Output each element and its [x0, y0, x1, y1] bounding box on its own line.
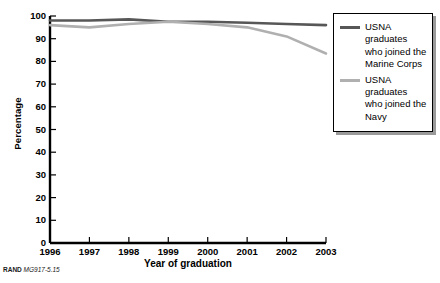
- legend-label: USNA graduates who joined the Navy: [365, 74, 427, 124]
- legend-color-swatch: [340, 79, 360, 82]
- legend-color-swatch: [340, 26, 360, 29]
- series-lines: [50, 19, 326, 53]
- y-tick-label: 20: [20, 193, 46, 203]
- legend-entry: USNA graduates who joined the Navy: [340, 74, 427, 124]
- series-line: [50, 22, 326, 54]
- x-axis-title: Year of graduation: [50, 258, 326, 269]
- chart-figure: 0102030405060708090100 19961997199819992…: [0, 0, 440, 283]
- source-note-rand: RAND: [3, 266, 22, 273]
- y-tick-label: 70: [20, 79, 46, 89]
- y-tick-label: 50: [20, 125, 46, 135]
- legend-entry: USNA graduates who joined the Marine Cor…: [340, 21, 427, 71]
- y-tick-label: 40: [20, 147, 46, 157]
- y-tick-label: 80: [20, 57, 46, 67]
- chart-legend: USNA graduates who joined the Marine Cor…: [333, 13, 433, 132]
- y-tick-label: 90: [20, 34, 46, 44]
- y-tick-label: 100: [20, 11, 46, 21]
- y-tick-label: 30: [20, 170, 46, 180]
- source-note-docid: MG917-5.15: [24, 266, 60, 273]
- source-note: RAND MG917-5.15: [3, 266, 60, 273]
- y-tick-label: 60: [20, 102, 46, 112]
- y-axis-title: Percentage: [12, 69, 23, 179]
- x-tick-label: 2003: [303, 246, 349, 257]
- legend-label: USNA graduates who joined the Marine Cor…: [365, 21, 427, 71]
- y-tick-label: 10: [20, 216, 46, 226]
